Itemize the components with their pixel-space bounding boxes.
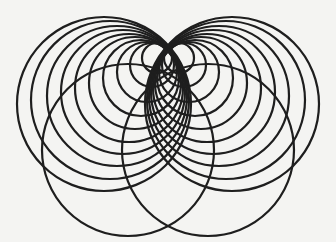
circle-figure — [0, 0, 336, 242]
tangent-circles-diagram — [0, 0, 336, 242]
